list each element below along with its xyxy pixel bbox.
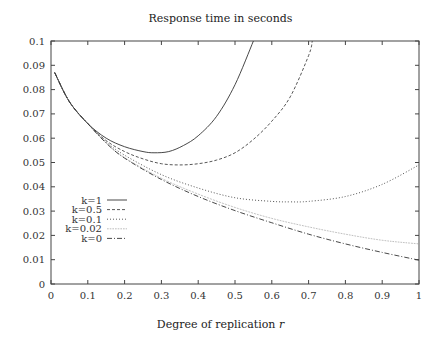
x-tick-label: 0.3 [153, 290, 169, 301]
y-tick-label: 0 [39, 279, 45, 290]
series-line-k-0 [55, 73, 419, 261]
x-tick-label: 0.9 [374, 290, 390, 301]
x-axis-variable: r [279, 318, 284, 331]
y-tick-label: 0.01 [23, 254, 45, 265]
legend-label: k=0 [81, 233, 102, 244]
x-tick-label: 0.8 [337, 290, 353, 301]
x-tick-label: 0 [48, 290, 54, 301]
x-tick-label: 0.1 [80, 290, 96, 301]
series-line-k-0-02 [55, 73, 419, 244]
x-tick-label: 0.7 [301, 290, 317, 301]
y-tick-label: 0.04 [23, 181, 45, 192]
series-line-k-0-5 [55, 41, 313, 165]
x-tick-label: 1 [416, 290, 422, 301]
plot-frame [51, 41, 419, 284]
x-tick-label: 0.6 [264, 290, 280, 301]
y-tick-label: 0.07 [23, 108, 45, 119]
x-axis-label: Degree of replication r [0, 318, 441, 331]
line-chart: 00.10.20.30.40.50.60.70.80.9100.010.020.… [0, 0, 441, 349]
y-tick-label: 0.08 [23, 84, 45, 95]
x-tick-label: 0.2 [117, 290, 133, 301]
y-tick-label: 0.06 [23, 133, 45, 144]
series-line-k-0-1 [55, 73, 419, 202]
y-tick-label: 0.03 [23, 206, 45, 217]
y-tick-label: 0.02 [23, 230, 45, 241]
x-axis-label-text: Degree of replication [157, 318, 279, 331]
y-tick-label: 0.09 [23, 60, 45, 71]
series-line-k-1 [55, 41, 254, 153]
y-tick-label: 0.1 [29, 36, 45, 47]
x-tick-label: 0.4 [190, 290, 206, 301]
y-tick-label: 0.05 [23, 157, 45, 168]
x-tick-label: 0.5 [227, 290, 243, 301]
